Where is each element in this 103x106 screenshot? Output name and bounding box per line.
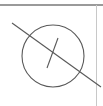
canvas-background: [0, 0, 103, 106]
figure-root: [0, 0, 103, 106]
diagram-canvas: [0, 0, 103, 106]
